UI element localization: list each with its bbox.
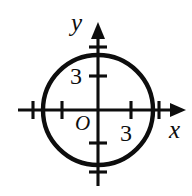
y-axis-arrowhead (91, 22, 105, 39)
x-axis-label: x (169, 117, 180, 142)
coordinate-figure: y x O 3 3 (0, 0, 192, 196)
y-axis-label: y (71, 10, 82, 35)
figure-canvas (0, 0, 192, 196)
origin-label: O (75, 113, 90, 134)
y-axis-value-label-3: 3 (70, 64, 82, 88)
x-axis-value-label-3: 3 (120, 121, 132, 145)
x-axis-arrowhead (170, 103, 186, 117)
